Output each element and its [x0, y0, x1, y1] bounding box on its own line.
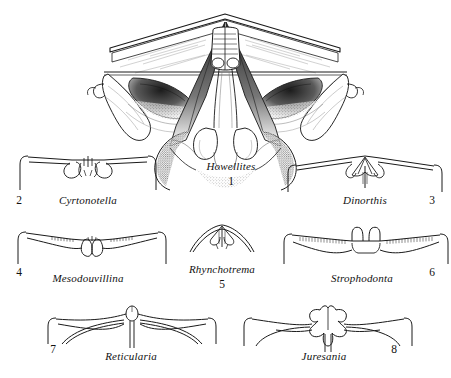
- figure-label-mesodouvillina: Mesodouvillina: [52, 272, 123, 284]
- figure-label-howellites: Howellites: [206, 160, 255, 172]
- figure-number-3: 3: [429, 194, 435, 206]
- figure-label-rhynchotrema: Rhynchotrema: [189, 263, 255, 275]
- illustration-plate: Howellites 1 Cyrtonotella 2 Dinorthis 3 …: [0, 0, 451, 378]
- figure-number-8: 8: [391, 343, 397, 355]
- figure-label-cyrtonotella: Cyrtonotella: [59, 194, 117, 206]
- figure-number-1: 1: [228, 175, 234, 187]
- figure-label-reticularia: Reticularia: [105, 350, 157, 362]
- plate-svg: [0, 0, 451, 378]
- figure-number-6: 6: [429, 266, 435, 278]
- figure-number-5: 5: [219, 278, 225, 290]
- figure-number-4: 4: [16, 266, 22, 278]
- figure-label-juresania: Juresania: [302, 350, 347, 362]
- figure-number-7: 7: [50, 343, 56, 355]
- figure-label-strophodonta: Strophodonta: [331, 272, 393, 284]
- figure-number-2: 2: [16, 194, 22, 206]
- figure-label-dinorthis: Dinorthis: [343, 194, 387, 206]
- howellites-cardinal-process: [211, 27, 240, 70]
